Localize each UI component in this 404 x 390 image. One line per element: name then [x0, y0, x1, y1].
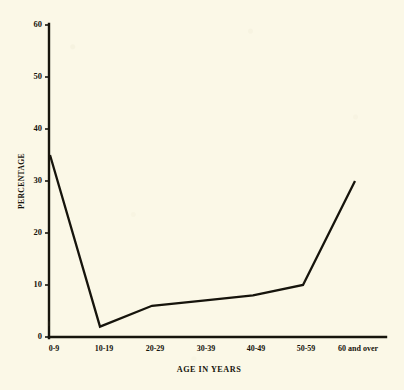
- x-tick-label-30-39: 30-39: [197, 344, 216, 353]
- y-tick-label-20: 20: [34, 227, 43, 237]
- x-tick-label-0-9: 0-9: [49, 344, 60, 353]
- line-chart-figure: 0 10 20 30 40 50 60 0-9 10-19 20-29 30-3…: [0, 0, 404, 390]
- chart-plot-area: 0 10 20 30 40 50 60 0-9 10-19 20-29 30-3…: [0, 0, 404, 390]
- x-tick-label-20-29: 20-29: [146, 344, 165, 353]
- x-tick-label-50-59: 50-59: [297, 344, 316, 353]
- y-tick-label-40: 40: [34, 123, 43, 133]
- y-tick-label-30: 30: [34, 175, 43, 185]
- x-tick-label-40-49: 40-49: [247, 344, 266, 353]
- y-axis-tick-labels: 0 10 20 30 40 50 60: [34, 19, 43, 341]
- data-series-line: [50, 155, 355, 327]
- x-tick-label-60-and-over: 60 and over: [338, 344, 378, 353]
- x-tick-label-10-19: 10-19: [95, 344, 114, 353]
- y-tick-label-10: 10: [34, 279, 43, 289]
- x-axis-tick-labels: 0-9 10-19 20-29 30-39 40-49 50-59 60 and…: [49, 344, 379, 353]
- x-axis-title: AGE IN YEARS: [177, 365, 241, 374]
- y-axis-title: PERCENTAGE: [17, 153, 26, 209]
- y-tick-label-50: 50: [34, 71, 43, 81]
- y-tick-label-60: 60: [34, 19, 43, 29]
- y-tick-label-0: 0: [38, 331, 42, 341]
